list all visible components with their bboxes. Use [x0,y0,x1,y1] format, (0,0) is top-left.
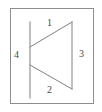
segment-label-4: 4 [14,50,19,60]
segment-label-1: 1 [47,18,52,28]
diagram-canvas: 1 2 3 4 [0,0,102,112]
segment-label-2: 2 [47,85,52,95]
segment-label-3: 3 [79,49,84,59]
